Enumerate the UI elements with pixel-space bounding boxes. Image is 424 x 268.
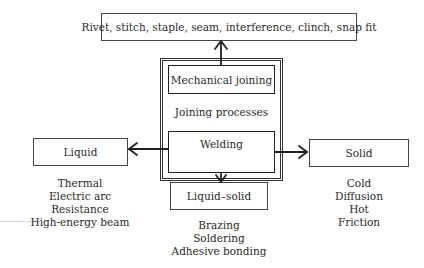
liquid-solid-box: Liquid–solid bbox=[170, 182, 268, 210]
liquid-box: Liquid bbox=[33, 138, 128, 166]
solid-item: Hot bbox=[299, 203, 419, 216]
solid-item: Diffusion bbox=[299, 190, 419, 203]
liquid-item: Electric arc bbox=[20, 190, 140, 203]
solid-process-list: Cold Diffusion Hot Friction bbox=[299, 177, 419, 229]
liquid-solid-item: Brazing bbox=[159, 219, 279, 232]
mechanical-joining-box: Mechanical joining bbox=[168, 65, 275, 94]
welding-label: Welding bbox=[200, 138, 243, 150]
joining-processes-text: Joining processes bbox=[175, 106, 268, 118]
liquid-item: High-energy beam bbox=[20, 216, 140, 229]
liquid-solid-process-list: Brazing Soldering Adhesive bonding bbox=[159, 219, 279, 258]
liquid-item: Thermal bbox=[20, 177, 140, 190]
solid-item: Cold bbox=[299, 177, 419, 190]
liquid-solid-item: Adhesive bonding bbox=[159, 245, 279, 258]
welding-box: Welding bbox=[168, 131, 275, 173]
liquid-item: Resistance bbox=[20, 203, 140, 216]
mechanical-methods-label: Rivet, stitch, staple, seam, interferenc… bbox=[82, 21, 377, 33]
mechanical-joining-label: Mechanical joining bbox=[171, 74, 272, 86]
mechanical-methods-box: Rivet, stitch, staple, seam, interferenc… bbox=[101, 13, 357, 41]
liquid-process-list: Thermal Electric arc Resistance High-ene… bbox=[20, 177, 140, 229]
solid-label: Solid bbox=[346, 147, 373, 159]
liquid-solid-label: Liquid–solid bbox=[187, 190, 251, 202]
liquid-solid-item: Soldering bbox=[159, 232, 279, 245]
liquid-label: Liquid bbox=[64, 146, 98, 158]
solid-item: Friction bbox=[299, 216, 419, 229]
joining-processes-label: Joining processes bbox=[160, 106, 283, 118]
solid-box: Solid bbox=[309, 139, 409, 167]
